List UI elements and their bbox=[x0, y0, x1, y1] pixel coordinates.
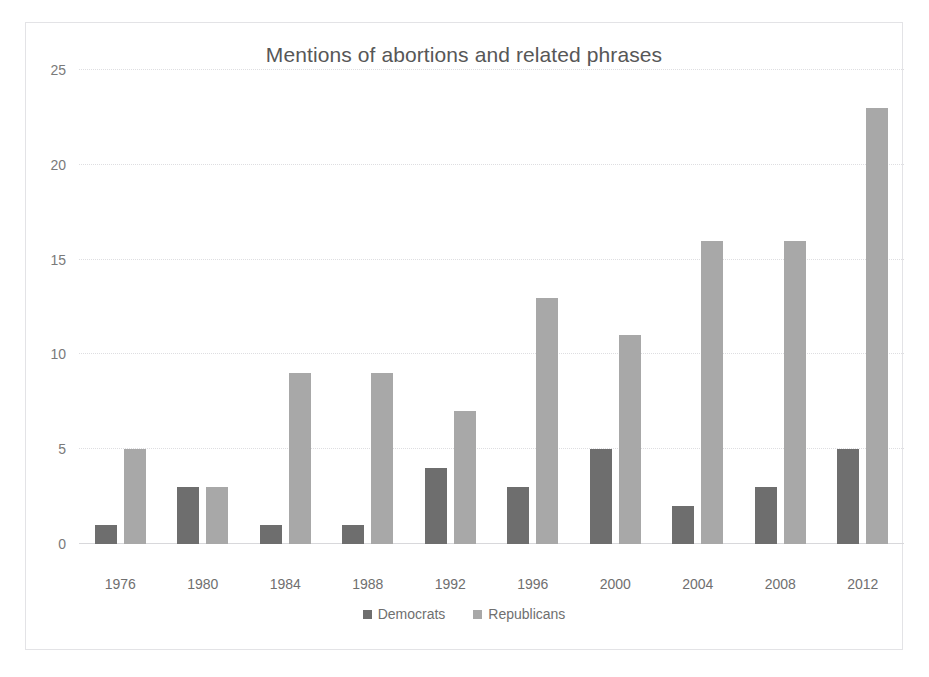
bar-group bbox=[327, 70, 410, 544]
bar-republicans-2012 bbox=[866, 108, 888, 544]
bar-group bbox=[822, 70, 905, 544]
x-axis-tick-label: 2008 bbox=[739, 566, 822, 592]
bar-group bbox=[492, 70, 575, 544]
y-axis-tick-label: 10 bbox=[50, 346, 66, 362]
legend-swatch-icon bbox=[363, 610, 372, 619]
bar-democrats-1976 bbox=[95, 525, 117, 544]
bar-republicans-1980 bbox=[206, 487, 228, 544]
y-axis-tick-label: 20 bbox=[50, 157, 66, 173]
x-axis-tick-label: 2004 bbox=[657, 566, 740, 592]
bar-democrats-1996 bbox=[507, 487, 529, 544]
bar-republicans-1984 bbox=[289, 373, 311, 544]
bar-republicans-1992 bbox=[454, 411, 476, 544]
bar-democrats-1992 bbox=[425, 468, 447, 544]
y-axis-tick-label: 25 bbox=[50, 62, 66, 78]
x-axis-tick-label: 1984 bbox=[244, 566, 327, 592]
legend-item-republicans[interactable]: Republicans bbox=[473, 606, 565, 622]
x-axis-tick-label: 2012 bbox=[822, 566, 905, 592]
legend-swatch-icon bbox=[473, 610, 482, 619]
bar-democrats-2012 bbox=[837, 449, 859, 544]
bar-group bbox=[162, 70, 245, 544]
plot-area: 0510152025 bbox=[79, 70, 904, 544]
bar-democrats-2004 bbox=[672, 506, 694, 544]
bar-republicans-2008 bbox=[784, 241, 806, 544]
bar-democrats-2008 bbox=[755, 487, 777, 544]
chart-legend: DemocratsRepublicans bbox=[26, 606, 902, 622]
bar-group bbox=[657, 70, 740, 544]
x-axis-tick-label: 1976 bbox=[79, 566, 162, 592]
y-axis-tick-label: 0 bbox=[58, 536, 66, 552]
bar-republicans-1976 bbox=[124, 449, 146, 544]
bar-group bbox=[244, 70, 327, 544]
bar-group bbox=[739, 70, 822, 544]
bar-group bbox=[79, 70, 162, 544]
y-axis-tick-label: 5 bbox=[58, 441, 66, 457]
legend-label: Democrats bbox=[378, 606, 446, 622]
bar-republicans-1988 bbox=[371, 373, 393, 544]
bar-democrats-1984 bbox=[260, 525, 282, 544]
x-axis-tick-label: 1988 bbox=[327, 566, 410, 592]
bar-democrats-1988 bbox=[342, 525, 364, 544]
x-axis-tick-label: 1992 bbox=[409, 566, 492, 592]
screenshot-root: Mentions of abortions and related phrase… bbox=[0, 0, 929, 677]
legend-label: Republicans bbox=[488, 606, 565, 622]
bar-republicans-2004 bbox=[701, 241, 723, 544]
x-axis-tick-label: 1980 bbox=[162, 566, 245, 592]
bar-group bbox=[574, 70, 657, 544]
legend-item-democrats[interactable]: Democrats bbox=[363, 606, 446, 622]
bar-republicans-1996 bbox=[536, 298, 558, 544]
bar-republicans-2000 bbox=[619, 335, 641, 544]
x-axis-tick-label: 1996 bbox=[492, 566, 575, 592]
bar-groups bbox=[79, 70, 904, 544]
chart-frame: Mentions of abortions and related phrase… bbox=[25, 22, 903, 650]
y-axis-tick-label: 15 bbox=[50, 252, 66, 268]
x-axis-tick-label: 2000 bbox=[574, 566, 657, 592]
chart-title: Mentions of abortions and related phrase… bbox=[26, 43, 902, 67]
bar-group bbox=[409, 70, 492, 544]
bar-democrats-1980 bbox=[177, 487, 199, 544]
bar-democrats-2000 bbox=[590, 449, 612, 544]
x-axis-tick-labels: 1976198019841988199219962000200420082012 bbox=[79, 566, 904, 592]
